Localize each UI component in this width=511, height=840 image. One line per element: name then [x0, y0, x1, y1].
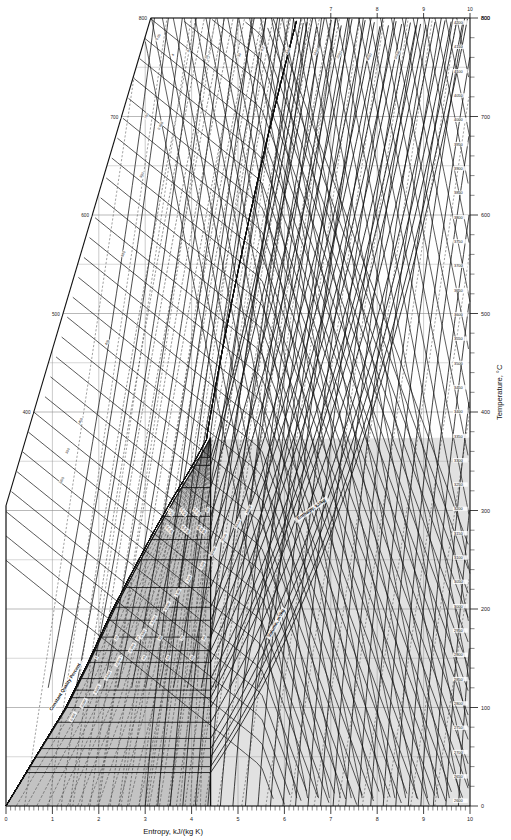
svg-text:3550: 3550 [454, 336, 463, 341]
svg-text:3350: 3350 [454, 434, 463, 439]
curve-label: 4000 [365, 52, 373, 62]
enthalpy-label: 3350 [453, 434, 468, 439]
x-tick-label: 7 [329, 816, 332, 822]
x-tick-label: 6 [283, 816, 286, 822]
svg-text:500: 500 [52, 312, 60, 317]
svg-text:10: 10 [467, 816, 473, 822]
svg-text:600: 600 [81, 213, 89, 218]
enthalpy-label: 3500 [453, 361, 468, 366]
x-tick-label: 5 [237, 816, 240, 822]
enthalpy-label: 3200 [453, 506, 468, 511]
svg-text:2900: 2900 [454, 652, 463, 657]
left-temp-label: 600 [80, 213, 91, 218]
svg-text:2600: 2600 [454, 798, 463, 803]
svg-text:3250: 3250 [454, 482, 463, 487]
svg-text:700: 700 [481, 114, 490, 120]
svg-text:0: 0 [5, 816, 8, 822]
svg-text:5: 5 [237, 816, 240, 822]
ts-diagram-page: 0.054620500.2500100020004000100007000.00… [0, 0, 511, 840]
svg-text:7: 7 [329, 6, 332, 12]
svg-text:500: 500 [481, 311, 490, 317]
svg-text:10: 10 [467, 6, 473, 12]
x-tick-label: 3 [144, 816, 147, 822]
svg-text:3950: 3950 [454, 142, 463, 147]
top-left-temp-label: 800 [139, 15, 148, 21]
svg-text:2700: 2700 [454, 750, 463, 755]
svg-text:200: 200 [481, 606, 490, 612]
x-tick-label: 4 [190, 816, 193, 822]
enthalpy-label: 3950 [453, 142, 468, 147]
enthalpy-label: 3150 [453, 531, 468, 536]
svg-text:3150: 3150 [454, 531, 463, 536]
left-temp-label: 500 [51, 311, 62, 316]
svg-text:3600: 3600 [454, 312, 463, 317]
curve-label: 700 [143, 112, 150, 120]
enthalpy-label: 3600 [453, 312, 468, 317]
svg-text:400: 400 [23, 410, 31, 415]
svg-text:2650: 2650 [454, 774, 463, 779]
svg-text:700: 700 [111, 115, 119, 120]
svg-text:2800: 2800 [454, 701, 463, 706]
svg-text:3650: 3650 [454, 288, 463, 293]
svg-text:2950: 2950 [454, 628, 463, 633]
ts-chart: 0.054620500.2500100020004000100007000.00… [0, 0, 511, 840]
y-tick-label: 500 [481, 311, 490, 317]
curve-label: 0.05 [154, 32, 162, 42]
enthalpy-label: 3000 [453, 604, 468, 609]
svg-text:3000: 3000 [454, 604, 463, 609]
svg-text:7: 7 [329, 816, 332, 822]
svg-text:Entropy, kJ/(kg K): Entropy, kJ/(kg K) [143, 827, 203, 836]
left-temp-label: 700 [110, 114, 121, 119]
curve-label: 300 [64, 447, 71, 455]
svg-text:100: 100 [481, 705, 490, 711]
top-tick-label: 10 [467, 6, 473, 12]
svg-text:6: 6 [283, 816, 286, 822]
enthalpy-label: 2800 [453, 701, 468, 706]
svg-text:8: 8 [376, 6, 379, 12]
svg-text:800: 800 [481, 15, 490, 21]
enthalpy-label: 3650 [453, 288, 468, 293]
svg-text:2750: 2750 [454, 725, 463, 730]
enthalpy-label: 3550 [453, 336, 468, 341]
curve-label: 10000 [393, 49, 402, 61]
enthalpy-label: 4050 [453, 93, 468, 98]
top-tick-label: 8 [376, 6, 379, 12]
svg-text:3500: 3500 [454, 361, 463, 366]
svg-text:9: 9 [422, 816, 425, 822]
curve-label: 600 [138, 171, 145, 179]
x-tick-label: 8 [376, 816, 379, 822]
svg-text:3700: 3700 [454, 263, 463, 268]
svg-text:3200: 3200 [454, 506, 463, 511]
svg-text:3400: 3400 [454, 409, 463, 414]
enthalpy-label: 3700 [453, 263, 468, 268]
x-tick-label: 2 [97, 816, 100, 822]
enthalpy-label: 2900 [453, 652, 468, 657]
curve-label: 50 [236, 52, 242, 59]
top-right-temp-label: 800 [481, 15, 490, 21]
y-tick-label: 300 [481, 508, 490, 514]
y-tick-label: 0 [481, 803, 484, 809]
y-tick-label: 400 [481, 409, 490, 415]
svg-text:3850: 3850 [454, 190, 463, 195]
svg-text:300: 300 [481, 508, 490, 514]
enthalpy-label: 4100 [453, 69, 468, 74]
enthalpy-label: 2700 [453, 750, 468, 755]
curve-label: 500 [284, 47, 291, 55]
y-tick-label: 100 [481, 705, 490, 711]
svg-text:Temperature, °C: Temperature, °C [495, 364, 504, 420]
svg-text:8: 8 [376, 816, 379, 822]
svg-text:9: 9 [422, 6, 425, 12]
enthalpy-label: 4150 [453, 44, 468, 49]
svg-text:400: 400 [481, 409, 490, 415]
svg-text:3: 3 [144, 816, 147, 822]
enthalpy-label: 2850 [453, 677, 468, 682]
curve-label: 1400 [76, 416, 84, 426]
enthalpy-label: 3400 [453, 409, 468, 414]
svg-text:2: 2 [97, 816, 100, 822]
enthalpy-label: 3800 [453, 215, 468, 220]
svg-text:0: 0 [481, 803, 484, 809]
x-axis-title: Entropy, kJ/(kg K) [143, 827, 203, 836]
x-tick-label: 9 [422, 816, 425, 822]
enthalpy-label: 2950 [453, 628, 468, 633]
enthalpy-label: 4000 [453, 117, 468, 122]
